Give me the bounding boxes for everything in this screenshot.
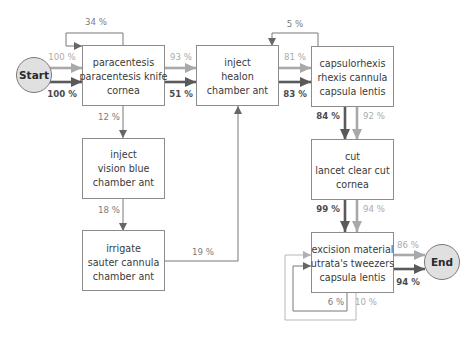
node-paracentesis: paracentesis paracentesis knife cornea (79, 46, 167, 106)
node-line: sauter cannula (88, 257, 160, 268)
edge-label: 34 % (85, 17, 107, 27)
node-cut: cut lancet clear cut cornea (312, 140, 394, 200)
node-line: cut (345, 151, 360, 162)
node-line: chamber ant (93, 177, 155, 188)
node-line: vision blue (98, 163, 150, 174)
edge-label: 18 % (98, 205, 120, 215)
node-line: cornea (107, 85, 140, 96)
node-line: capsula lentis (320, 86, 386, 97)
node-inject-healon: inject healon chamber ant (197, 46, 279, 106)
node-line: chamber ant (207, 85, 269, 96)
edge-label: 94 % (363, 204, 385, 214)
node-irrigate: irrigate sauter cannula chamber ant (83, 231, 165, 291)
edge-label: 100 % (47, 89, 77, 99)
edge-irrigate-healon-arrow (165, 106, 238, 261)
edge-label: 19 % (192, 247, 214, 257)
edge-label: 94 % (396, 277, 420, 287)
node-line: excision material (312, 244, 394, 255)
node-line: capsulorhexis (320, 58, 386, 69)
edge-label: 100 % (48, 52, 75, 62)
edge-capsulorhexis-healon-arrow (272, 33, 318, 46)
node-line: lancet clear cut (315, 165, 390, 176)
edge-label: 81 % (284, 52, 306, 62)
edge-label: 83 % (283, 89, 307, 99)
edge-label: 93 % (170, 52, 192, 62)
edge-label: 86 % (397, 240, 419, 250)
node-line: rhexis cannula (318, 72, 388, 83)
edge-label: 6 % (328, 297, 344, 307)
node-line: healon (221, 71, 253, 82)
edge-label: 12 % (98, 112, 120, 122)
node-excision: excision material utrata's tweezers caps… (311, 233, 394, 293)
node-line: irrigate (106, 243, 141, 254)
node-line: inject (110, 149, 137, 160)
node-line: cornea (336, 179, 369, 190)
end-node: End (425, 245, 460, 280)
node-line: utrata's tweezers (311, 258, 394, 269)
edge-label: 5 % (287, 19, 303, 29)
start-node: Start (17, 58, 52, 93)
node-line: paracentesis knife (79, 71, 167, 82)
node-line: paracentesis (93, 57, 154, 68)
node-capsulorhexis: capsulorhexis rhexis cannula capsula len… (312, 47, 394, 107)
node-inject-vision-blue: inject vision blue chamber ant (83, 139, 165, 199)
edge-label: 99 % (316, 204, 340, 214)
edge-label: 92 % (363, 111, 385, 121)
edge-label: 10 % (355, 297, 377, 307)
edge-label: 84 % (316, 111, 340, 121)
edge-paracentesis-loop-arrow (66, 33, 123, 46)
edge-label: 51 % (169, 89, 193, 99)
process-flow-diagram: 100 % 100 % 34 % 93 % 51 % 12 % 18 % 19 … (0, 0, 476, 337)
end-label: End (431, 256, 453, 268)
start-label: Start (19, 69, 49, 81)
node-line: inject (224, 57, 251, 68)
node-line: capsula lentis (320, 272, 386, 283)
node-line: chamber ant (93, 271, 155, 282)
